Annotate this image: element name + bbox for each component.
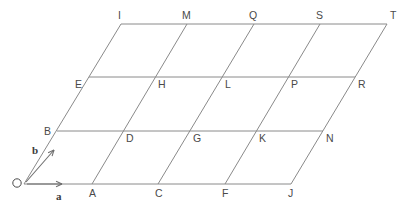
lattice-canvas (0, 0, 416, 207)
lattice-node-label-b: B (44, 126, 51, 137)
lattice-diagonal-lines (24, 24, 387, 184)
lattice-node-label-j: J (288, 188, 293, 199)
lattice-node-label-a: A (89, 188, 96, 199)
lattice-node-label-n: N (326, 133, 334, 144)
origin-marker (13, 179, 21, 187)
lattice-node-label-g: G (193, 133, 201, 144)
lattice-node-label-e: E (75, 79, 82, 90)
lattice-node-label-r: R (358, 79, 366, 90)
lattice-node-label-p: P (291, 79, 298, 90)
lattice-node-label-c: C (155, 188, 163, 199)
lattice-node-label-h: H (158, 79, 166, 90)
lattice-diagram: ACFJBDGKNEHLPRIMQSTab (0, 0, 416, 207)
lattice-node-label-m: M (182, 10, 191, 21)
lattice-node-label-d: D (126, 133, 134, 144)
lattice-node-label-k: K (259, 133, 266, 144)
lattice-node-label-s: S (316, 10, 323, 21)
basis-vector-label-b: b (32, 145, 38, 156)
origin-circle-icon (13, 179, 21, 187)
lattice-node-label-t: T (390, 10, 397, 21)
lattice-node-label-f: F (222, 188, 229, 199)
vector-b-shaft (26, 150, 54, 182)
lattice-node-label-i: I (118, 10, 121, 21)
lattice-node-label-l: L (225, 79, 231, 90)
basis-vector-label-a: a (56, 191, 62, 202)
lattice-node-label-q: Q (249, 10, 257, 21)
